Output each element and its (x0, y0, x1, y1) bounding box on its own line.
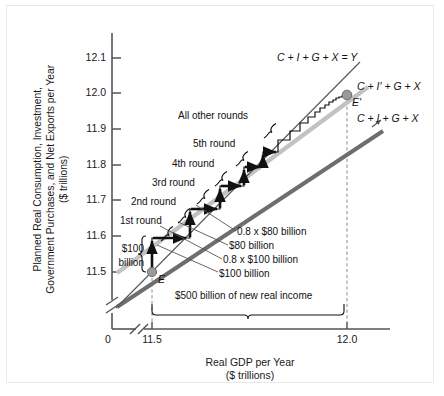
annotation-80-billion: $80 billion (229, 240, 274, 251)
y-tick-label-11-5: 11.5 (74, 266, 106, 278)
y-tick-label-12-1: 12.1 (74, 52, 106, 64)
y-tick-label-12-0: 12.0 (74, 87, 106, 99)
round-label-5th: 5th round (193, 138, 235, 149)
brace-label-100-line1: $100 (104, 243, 144, 254)
point-label-e: E (158, 274, 165, 286)
point-label-e-prime: E' (352, 97, 361, 109)
x-axis-title-line1: Real GDP per Year (190, 357, 310, 369)
round-label-2nd: 2nd round (131, 196, 176, 207)
y-tick-label-11-6: 11.6 (74, 230, 106, 242)
y-tick-label-11-8: 11.8 (74, 159, 106, 171)
round-label-1st: 1st round (120, 215, 162, 226)
annotation-0-8-x-80-billion: 0.8 x $80 billion (237, 226, 307, 237)
round-label-all-other: All other rounds (178, 110, 248, 121)
point-marker-e-prime (342, 90, 352, 100)
x-tick-label-11-5: 11.5 (137, 334, 167, 346)
y-axis-title-line2: Government Purchases, and Net Exports pe… (45, 65, 56, 294)
annotation-0-8-x-100-billion: 0.8 x $100 billion (223, 254, 298, 265)
income-span-brace (152, 304, 344, 319)
dashed-guides (152, 95, 347, 323)
brace-label-100-line2: billion (104, 257, 144, 268)
curve-label-45-degree: C + I + G + X = Y (277, 52, 357, 64)
y-axis-title-line1: Planned Real Consumption, Investment, (32, 87, 43, 271)
x-axis-title-line2: ($ trillions) (190, 370, 310, 382)
round-label-4th: 4th round (172, 158, 214, 169)
curve-label-original-expenditure: C + I + G + X (357, 113, 419, 125)
figure-container: Planned Real Consumption, Investment, Go… (0, 0, 444, 396)
y-axis-title-line3: ($ trillions) (57, 156, 68, 204)
y-axis-title: Planned Real Consumption, Investment, Go… (32, 50, 71, 308)
y-axis (106, 33, 121, 329)
round-label-3rd: 3rd round (152, 177, 195, 188)
point-marker-e (147, 267, 156, 276)
annotation-100-billion: $100 billion (219, 268, 270, 279)
x-tick-label-12-0: 12.0 (332, 334, 362, 346)
x-origin-label: 0 (98, 334, 118, 346)
income-span-label: $500 billion of new real income (175, 290, 312, 301)
y-tick-label-11-7: 11.7 (74, 194, 106, 206)
y-tick-label-11-9: 11.9 (74, 123, 106, 135)
curve-label-new-expenditure: C + I' + G + X (357, 81, 421, 93)
